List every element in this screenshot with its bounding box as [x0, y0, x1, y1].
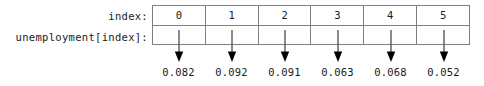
down-arrow-icon — [438, 30, 449, 62]
arrow-group — [152, 30, 470, 64]
row-label-unemployment-text: unemployment[index]: — [16, 31, 148, 43]
down-arrow-icon — [385, 30, 396, 62]
index-cell-3: 3 — [311, 6, 364, 25]
row-label-index-text: index: — [108, 10, 148, 22]
row-label-unemployment: unemployment[index]: — [0, 26, 148, 47]
arrow-slot-4 — [364, 30, 417, 64]
arrow-slot-5 — [417, 30, 470, 64]
arrow-slot-3 — [311, 30, 364, 64]
index-cell-1: 1 — [206, 6, 259, 25]
array-index-diagram: index: unemployment[index]: 0 1 2 3 4 5 — [0, 0, 484, 86]
down-arrow-icon — [173, 30, 184, 62]
table-row-index: 0 1 2 3 4 5 — [153, 6, 469, 26]
arrow-slot-1 — [205, 30, 258, 64]
value-caption-1: 0.092 — [205, 64, 258, 80]
value-caption-2: 0.091 — [258, 64, 311, 80]
index-cell-4: 4 — [364, 6, 417, 25]
value-caption-5: 0.052 — [417, 64, 470, 80]
index-cell-0: 0 — [153, 6, 206, 25]
down-arrow-icon — [226, 30, 237, 62]
row-label-group: index: unemployment[index]: — [0, 5, 148, 45]
arrow-slot-2 — [258, 30, 311, 64]
arrow-slot-0 — [152, 30, 205, 64]
value-caption-3: 0.063 — [311, 64, 364, 80]
value-caption-4: 0.068 — [364, 64, 417, 80]
index-cell-2: 2 — [259, 6, 312, 25]
value-caption-group: 0.082 0.092 0.091 0.063 0.068 0.052 — [152, 64, 470, 80]
down-arrow-icon — [332, 30, 343, 62]
value-caption-0: 0.082 — [152, 64, 205, 80]
index-cell-5: 5 — [417, 6, 469, 25]
row-label-index: index: — [0, 5, 148, 26]
down-arrow-icon — [279, 30, 290, 62]
